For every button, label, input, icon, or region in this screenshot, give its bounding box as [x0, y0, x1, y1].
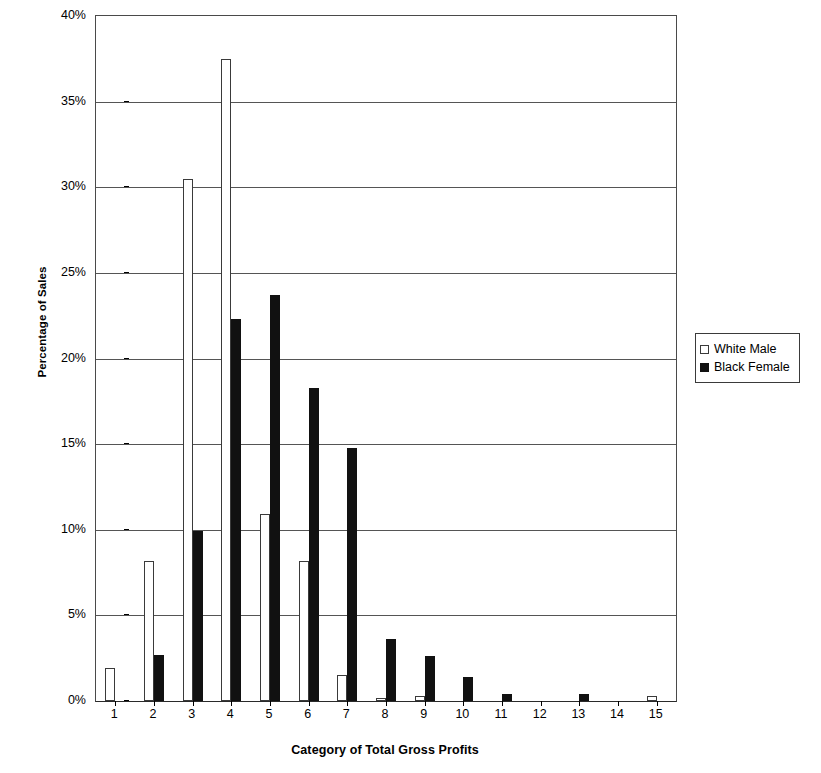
x-axis-tick-label: 7 — [326, 708, 366, 721]
bar-black-female-cat-10 — [463, 677, 473, 701]
x-axis-tick-label: 1 — [94, 708, 134, 721]
bar-white-male-cat-8 — [376, 698, 386, 701]
bar-white-male-cat-5 — [260, 514, 270, 701]
x-axis-tick-mark — [347, 701, 348, 706]
category-group — [289, 16, 328, 701]
x-axis-tick-label: 4 — [210, 708, 250, 721]
bar-white-male-cat-7 — [337, 675, 347, 701]
bars-layer — [96, 16, 676, 701]
x-axis-tick-mark — [618, 701, 619, 706]
y-axis-tick-label: 25% — [34, 266, 86, 279]
bar-black-female-cat-4 — [231, 319, 241, 701]
category-group — [405, 16, 444, 701]
x-axis-tick-mark — [309, 701, 310, 706]
x-axis-tick-label: 14 — [597, 708, 637, 721]
category-group — [483, 16, 522, 701]
bar-chart: Percentage of Sales 0%5%10%15%20%25%30%3… — [0, 0, 821, 773]
legend-item-black-female: Black Female — [700, 358, 794, 376]
bar-white-male-cat-3 — [183, 179, 193, 701]
category-group — [637, 16, 676, 701]
y-axis-tick-label: 0% — [34, 694, 86, 707]
legend-item-label: White Male — [714, 343, 777, 356]
legend-item-white-male: White Male — [700, 340, 794, 358]
bar-black-female-cat-6 — [309, 388, 319, 701]
category-group — [367, 16, 406, 701]
x-axis-tick-mark — [115, 701, 116, 706]
x-axis-tick-mark — [193, 701, 194, 706]
x-axis-tick-label: 9 — [404, 708, 444, 721]
bar-black-female-cat-7 — [347, 448, 357, 701]
bar-black-female-cat-13 — [579, 694, 589, 701]
x-axis-tick-label: 5 — [249, 708, 289, 721]
white-square-icon — [700, 345, 709, 354]
legend-item-label: Black Female — [714, 361, 790, 374]
x-axis-title: Category of Total Gross Profits — [95, 743, 675, 757]
y-axis-tick-label: 40% — [34, 9, 86, 22]
category-group — [328, 16, 367, 701]
y-axis-tick-label: 5% — [34, 608, 86, 621]
y-axis-tick-label: 15% — [34, 437, 86, 450]
bar-white-male-cat-15 — [647, 696, 657, 701]
x-axis-tick-label: 13 — [558, 708, 598, 721]
x-axis-tick-label: 15 — [636, 708, 676, 721]
category-group — [135, 16, 174, 701]
x-axis-tick-mark — [579, 701, 580, 706]
x-axis-tick-mark — [425, 701, 426, 706]
y-axis-tick-label: 20% — [34, 351, 86, 364]
bar-white-male-cat-2 — [144, 561, 154, 701]
bar-white-male-cat-9 — [415, 696, 425, 701]
bar-black-female-cat-8 — [386, 639, 396, 701]
y-axis-tick-label: 30% — [34, 180, 86, 193]
x-axis-tick-mark — [463, 701, 464, 706]
bar-black-female-cat-3 — [193, 531, 203, 701]
black-square-icon — [700, 363, 709, 372]
category-group — [212, 16, 251, 701]
bar-white-male-cat-4 — [221, 59, 231, 701]
y-axis-tick-label: 10% — [34, 523, 86, 536]
x-axis-tick-mark — [386, 701, 387, 706]
bar-black-female-cat-9 — [425, 656, 435, 701]
y-axis-tick-label: 35% — [34, 94, 86, 107]
bar-black-female-cat-11 — [502, 694, 512, 701]
x-axis-tick-label: 8 — [365, 708, 405, 721]
x-axis-tick-mark — [270, 701, 271, 706]
bar-white-male-cat-6 — [299, 561, 309, 701]
x-axis-tick-label: 3 — [172, 708, 212, 721]
category-group — [560, 16, 599, 701]
x-axis-tick-label: 10 — [442, 708, 482, 721]
plot-area — [95, 15, 677, 702]
x-axis-tick-label: 2 — [133, 708, 173, 721]
y-axis-ticks: 0%5%10%15%20%25%30%35%40% — [34, 0, 86, 773]
x-axis-tick-label: 12 — [520, 708, 560, 721]
bar-black-female-cat-5 — [270, 295, 280, 701]
x-axis-tick-label: 11 — [481, 708, 521, 721]
bar-black-female-cat-2 — [154, 655, 164, 701]
x-axis-tick-mark — [154, 701, 155, 706]
category-group — [521, 16, 560, 701]
category-group — [96, 16, 135, 701]
x-axis-tick-mark — [502, 701, 503, 706]
category-group — [444, 16, 483, 701]
bar-white-male-cat-1 — [105, 668, 115, 701]
x-axis-tick-mark — [541, 701, 542, 706]
x-axis-tick-label: 6 — [288, 708, 328, 721]
x-axis-tick-mark — [231, 701, 232, 706]
x-axis-tick-mark — [657, 701, 658, 706]
category-group — [173, 16, 212, 701]
category-group — [251, 16, 290, 701]
category-group — [599, 16, 638, 701]
legend: White MaleBlack Female — [695, 333, 800, 383]
